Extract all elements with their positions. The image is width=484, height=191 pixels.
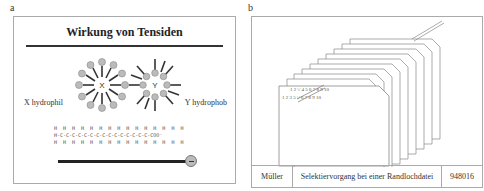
svg-text:X: X [99, 81, 105, 90]
svg-text:Y: Y [152, 81, 158, 90]
footer-caption: Selektiervorgang bei einer Randlochdatei [293, 166, 442, 187]
footer-author: Müller [252, 166, 293, 187]
svg-text:1 2 3 5 \/ 6 7 8 9 10: 1 2 3 5 \/ 6 7 8 9 10 [282, 95, 322, 100]
hydrophobic-label: Y hydrophob [185, 98, 227, 107]
micelle-hydrophilic-icon: X [72, 55, 132, 115]
hydrophilic-head-minus-icon [185, 155, 197, 167]
footer-number: 948016 [442, 166, 482, 187]
hydrophilic-label: X hydrophil [24, 98, 63, 107]
svg-text:1 2 \/ 4 5 6 7 8 9 10: 1 2 \/ 4 5 6 7 8 9 10 [290, 87, 330, 92]
caption-footer: Müller Selektiervorgang bei einer Randlo… [252, 165, 482, 187]
punched-cards-stack-icon: 1 2 \/ 4 5 6 7 8 9 10 1 2 3 5 \/ 6 7 8 9… [252, 17, 482, 167]
title-rule [26, 45, 223, 47]
panel-b-edge-punched-card-diagram: 1 2 \/ 4 5 6 7 8 9 10 1 2 3 5 \/ 6 7 8 9… [251, 16, 483, 188]
hydrocarbon-chain-formula: H H H H H H H H H H H H H H H H-C-C-C-C-… [54, 125, 183, 146]
panel-a-title: Wirkung von Tensiden [14, 25, 235, 40]
hydrophobic-tail-bar [58, 160, 190, 163]
chain-backbone: H-C-C-C-C-C-C-C-C-C-C-C-C-C-C-C-COO⁻ [54, 132, 162, 138]
panel-b-label: b [248, 2, 253, 13]
chain-top-h: H H H H H H H H H H H H H H H [54, 125, 183, 131]
chain-bottom-h: H H H H H H H H H H H H H H H [54, 139, 183, 145]
panel-a-label: a [10, 2, 14, 13]
panel-a-tenside-diagram: Wirkung von Tensiden X Y X hy [13, 16, 236, 184]
micelle-hydrophobic-icon: Y [127, 57, 183, 113]
